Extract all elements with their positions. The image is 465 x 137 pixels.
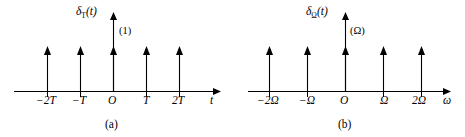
tick-label-a-2t: 2T [172,95,184,107]
impulse-head-a-0 [110,46,117,55]
amplitude-label-a: (1) [119,26,131,37]
impulse-head-b-p1 [380,46,387,55]
function-label-a: δT(t) [76,6,97,20]
y-axis-arrowhead-a [110,12,117,20]
tick-label-b-2omega: 2Ω [412,95,426,107]
impulse-head-a-m1 [77,46,84,55]
tick-label-b-origin: O [340,95,348,107]
function-arg-b: (t) [317,5,328,17]
panel-a-graphics [0,0,232,137]
impulse-train-figure: δT(t) (1) −2T −T O T 2T t (a) [0,0,465,137]
tick-label-a-minus-t: −T [72,95,86,107]
x-axis-label-b: ω [443,95,451,107]
impulse-head-a-p2 [176,46,183,55]
function-label-b: δΩ(t) [306,6,328,20]
panel-b: δΩ(t) (Ω) −2Ω −Ω O Ω 2Ω ω (b) [232,0,465,137]
tick-label-a-t: T [143,95,149,107]
impulse-head-b-p2 [418,46,425,55]
panel-a: δT(t) (1) −2T −T O T 2T t (a) [0,0,232,137]
tick-label-b-minus-omega: −Ω [299,95,315,107]
tick-label-a-minus-2t: −2T [36,95,56,107]
caption-a: (a) [105,118,118,130]
x-axis-arrowhead-a [213,88,221,95]
tick-label-a-origin: O [108,95,116,107]
y-axis-arrowhead-b [342,12,349,20]
tick-label-b-minus-2omega: −2Ω [257,95,279,107]
impulse-head-b-m1 [304,46,311,55]
x-axis-label-a: t [210,95,213,107]
amplitude-label-b: (Ω) [350,26,365,37]
impulse-head-a-p1 [143,46,150,55]
impulse-head-a-m2 [44,46,51,55]
impulse-head-b-m2 [266,46,273,55]
panel-b-graphics [232,0,465,137]
impulse-head-b-0 [342,46,349,55]
caption-b: (b) [338,118,351,130]
function-arg-a: (t) [86,5,97,17]
tick-label-b-omega: Ω [380,95,388,107]
